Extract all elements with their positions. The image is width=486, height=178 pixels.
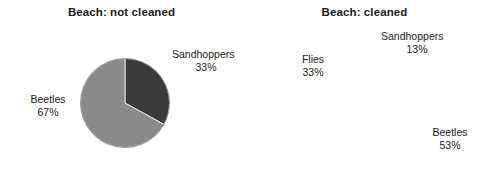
slice-label-not-cleaned-beetles: Beetles 67% bbox=[18, 93, 78, 118]
pie-chart-figure: Beach: not cleaned Beach: cleaned Sandho… bbox=[0, 0, 486, 178]
chart-title-cleaned: Beach: cleaned bbox=[243, 6, 486, 18]
slice-label-cleaned-flies: Flies 33% bbox=[293, 53, 333, 78]
slice-label-percent: 33% bbox=[293, 66, 333, 79]
slice-label-name: Flies bbox=[293, 53, 333, 66]
slice-label-percent: 67% bbox=[18, 106, 78, 119]
chart-title-not-cleaned: Beach: not cleaned bbox=[0, 6, 243, 18]
slice-label-name: Beetles bbox=[18, 93, 78, 106]
slice-label-cleaned-sandhoppers: Sandhoppers 13% bbox=[381, 30, 453, 55]
slice-label-not-cleaned-sandhoppers: Sandhoppers 33% bbox=[172, 48, 240, 73]
chart-panel-cleaned: Beach: cleaned bbox=[243, 0, 486, 178]
pie-not-cleaned bbox=[80, 58, 170, 148]
pie-not-cleaned-svg bbox=[80, 58, 170, 148]
chart-panel-not-cleaned: Beach: not cleaned bbox=[0, 0, 243, 178]
slice-label-percent: 33% bbox=[172, 61, 240, 74]
slice-label-name: Sandhoppers bbox=[172, 48, 240, 61]
slice-label-name: Beetles bbox=[424, 126, 476, 139]
slice-label-percent: 53% bbox=[424, 139, 476, 152]
slice-label-percent: 13% bbox=[381, 43, 453, 56]
slice-label-cleaned-beetles: Beetles 53% bbox=[424, 126, 476, 151]
slice-label-name: Sandhoppers bbox=[381, 30, 453, 43]
